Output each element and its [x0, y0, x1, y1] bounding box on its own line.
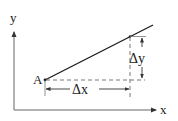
slope-diagram: y x A Δx Δy: [0, 0, 178, 121]
point-a-label: A: [33, 72, 43, 87]
y-axis-label: y: [10, 10, 17, 25]
delta-x-label: Δx: [72, 82, 88, 97]
delta-y-label: Δy: [129, 51, 145, 66]
x-axis-label: x: [160, 102, 167, 117]
